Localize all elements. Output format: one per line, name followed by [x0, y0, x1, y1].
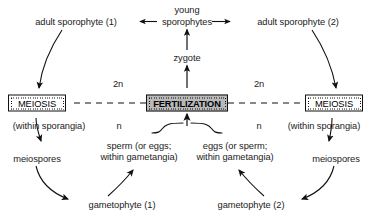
- label-zygote: zygote: [173, 53, 200, 64]
- label-gametophyte-2: gametophyte (2): [218, 200, 285, 211]
- label-ploidy-n-left: n: [116, 121, 121, 132]
- label-sperm-line2: within gametangia): [100, 152, 177, 163]
- label-eggs-line1: eggs (or sperm;: [203, 141, 267, 152]
- label-gametophyte-1: gametophyte (1): [89, 200, 156, 211]
- arrow-meiospores-left-to-gametophyte1: [36, 166, 68, 199]
- arrow-gametophyte2-to-eggs: [239, 170, 264, 196]
- process-fertilization-label: FERTILIZATION: [153, 98, 221, 108]
- label-within-sporangia-left: (within sporangia): [13, 121, 85, 132]
- label-meiospores-left: meiospores: [13, 154, 61, 165]
- arrow-adult1-to-meiosis: [39, 30, 62, 88]
- arrow-adult2-to-meiosis: [312, 30, 336, 88]
- process-meiosis-left-label: MEIOSIS: [18, 98, 56, 108]
- label-young-sporophytes-line2: sporophytes: [162, 17, 212, 28]
- label-sperm-line1: sperm (or eggs;: [107, 141, 171, 152]
- label-ploidy-2n-left: 2n: [113, 79, 123, 90]
- label-eggs-line2: within gametangia): [196, 152, 273, 163]
- process-meiosis-left: MEIOSIS: [8, 95, 66, 112]
- arrow-meiospores-right-to-gametophyte2: [302, 166, 334, 199]
- label-young-sporophytes-line1: young: [174, 5, 199, 16]
- label-adult-sporophyte-1: adult sporophyte (1): [35, 17, 117, 28]
- label-meiospores-right: meiospores: [312, 154, 360, 165]
- label-ploidy-n-right: n: [256, 121, 261, 132]
- life-cycle-diagram: adult sporophyte (1) young sporophytes a…: [0, 0, 375, 221]
- process-meiosis-right: MEIOSIS: [305, 95, 363, 112]
- label-adult-sporophyte-2: adult sporophyte (2): [257, 17, 339, 28]
- arrow-gametophyte1-to-sperm: [108, 170, 133, 196]
- label-ploidy-2n-right: 2n: [254, 79, 264, 90]
- process-fertilization: FERTILIZATION: [146, 95, 228, 112]
- process-meiosis-right-label: MEIOSIS: [315, 98, 353, 108]
- label-within-sporangia-right: (within sporangia): [288, 121, 360, 132]
